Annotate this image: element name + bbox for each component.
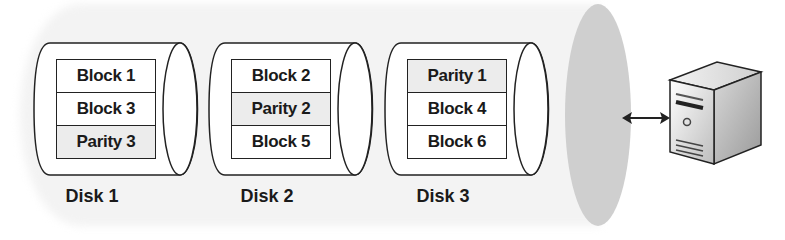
server-tower-icon: [665, 60, 765, 180]
disk-2: Block 2 Parity 2 Block 5 Disk 2: [207, 41, 367, 177]
block-cell: Block 6: [408, 125, 506, 158]
block-stack: Block 1 Block 3 Parity 3: [56, 59, 156, 159]
block-cell: Block 3: [57, 92, 155, 125]
disk-label: Disk 3: [383, 186, 503, 207]
block-stack: Parity 1 Block 4 Block 6: [407, 59, 507, 159]
block-cell: Block 5: [232, 125, 330, 158]
block-cell: Block 2: [232, 60, 330, 92]
block-stack: Block 2 Parity 2 Block 5: [231, 59, 331, 159]
block-cell: Block 1: [57, 60, 155, 92]
parity-cell: Parity 1: [408, 60, 506, 92]
bidirectional-arrow-icon: [622, 110, 670, 126]
block-cell: Block 4: [408, 92, 506, 125]
disk-label: Disk 2: [207, 186, 327, 207]
parity-cell: Parity 2: [232, 92, 330, 125]
disk-1: Block 1 Block 3 Parity 3 Disk 1: [32, 41, 192, 177]
disk-label: Disk 1: [32, 186, 152, 207]
disk-3: Parity 1 Block 4 Block 6 Disk 3: [383, 41, 543, 177]
parity-cell: Parity 3: [57, 125, 155, 158]
